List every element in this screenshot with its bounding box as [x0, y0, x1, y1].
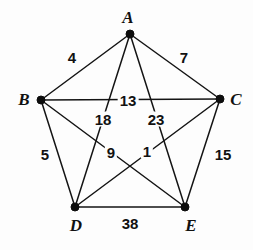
edge-weight-d-e: 38 [122, 216, 139, 231]
edge-weight-c-d: 1 [141, 144, 153, 159]
vertex-label-a: A [122, 9, 133, 26]
vertex-dot-d[interactable] [71, 203, 79, 211]
edge-weight-b-e: 9 [105, 145, 117, 160]
vertex-dot-c[interactable] [216, 95, 224, 103]
vertex-dot-b[interactable] [37, 96, 45, 104]
vertices-group [37, 30, 224, 211]
graph-diagram: ABCDE 471318235159138 [0, 0, 253, 250]
vertex-label-b: B [18, 91, 29, 108]
vertex-dot-e[interactable] [181, 203, 189, 211]
edge-a-b [41, 34, 130, 100]
edge-weight-c-e: 15 [215, 147, 232, 162]
edge-weight-a-c: 7 [180, 50, 188, 65]
vertex-label-d: D [70, 217, 82, 234]
edge-weight-b-c: 13 [118, 93, 139, 108]
vertex-label-c: C [230, 91, 241, 108]
edge-a-c [130, 34, 220, 99]
edge-weight-a-e: 23 [146, 112, 167, 127]
graph-canvas [0, 0, 253, 250]
edge-weight-b-d: 5 [41, 147, 49, 162]
edge-weight-a-b: 4 [68, 50, 76, 65]
vertex-dot-a[interactable] [126, 30, 134, 38]
vertex-label-e: E [185, 217, 196, 234]
edge-weight-a-d: 18 [93, 112, 114, 127]
